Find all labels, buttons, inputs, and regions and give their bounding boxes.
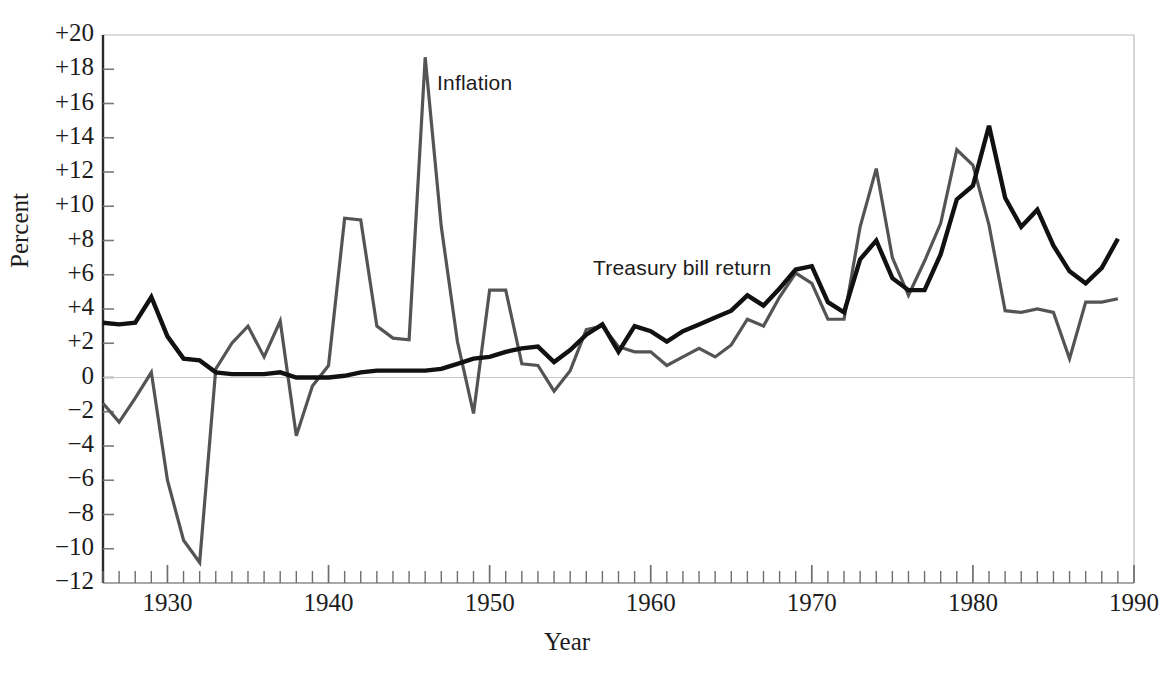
y-tick-label: −10	[30, 533, 94, 561]
x-tick-label: 1980	[928, 589, 1018, 617]
x-tick-label: 1950	[445, 589, 535, 617]
y-tick-label: −6	[30, 464, 94, 492]
x-axis-title: Year	[544, 628, 590, 656]
y-tick-label: −8	[30, 499, 94, 527]
x-tick-label: 1990	[1089, 589, 1175, 617]
series-label-inflation: Inflation	[437, 71, 512, 95]
x-tick-label: 1930	[122, 589, 212, 617]
y-tick-label: 0	[30, 362, 94, 390]
y-tick-label: −2	[30, 396, 94, 424]
y-tick-label: +10	[30, 190, 94, 218]
y-tick-label: +18	[30, 53, 94, 81]
y-tick-label: +2	[30, 327, 94, 355]
y-tick-label: +6	[30, 259, 94, 287]
y-tick-label: +8	[30, 225, 94, 253]
y-tick-label: +4	[30, 293, 94, 321]
y-tick-label: +16	[30, 88, 94, 116]
chart-plot-area	[0, 0, 1175, 674]
axis-ticks	[103, 69, 1134, 583]
series-line-inflation	[103, 57, 1118, 562]
x-tick-label: 1940	[284, 589, 374, 617]
y-tick-label: −4	[30, 430, 94, 458]
chart-figure: Percent Year +20+18+16+14+12+10+8+6+4+20…	[0, 0, 1175, 674]
y-tick-label: +14	[30, 122, 94, 150]
plot-frame	[103, 35, 1134, 583]
y-tick-label: +12	[30, 156, 94, 184]
y-tick-label: −12	[30, 567, 94, 595]
x-tick-label: 1970	[767, 589, 857, 617]
series-label-treasury-bill-return: Treasury bill return	[593, 256, 771, 280]
y-tick-label: +20	[30, 19, 94, 47]
x-tick-label: 1960	[606, 589, 696, 617]
data-series-group	[103, 57, 1118, 562]
